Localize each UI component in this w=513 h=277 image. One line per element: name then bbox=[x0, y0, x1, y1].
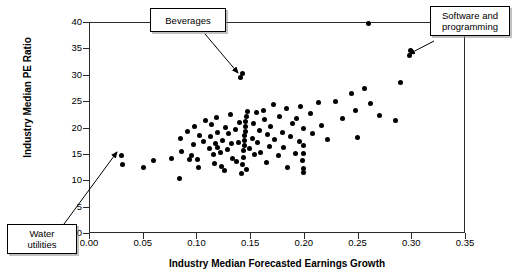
data-point bbox=[264, 160, 269, 165]
y-tick-label: 35 bbox=[0, 43, 91, 53]
x-tick-label: 0.05 bbox=[113, 238, 173, 248]
data-point bbox=[407, 53, 412, 58]
data-point bbox=[319, 123, 324, 128]
data-point bbox=[233, 127, 238, 132]
data-point bbox=[285, 165, 290, 170]
data-point bbox=[241, 155, 246, 160]
data-point bbox=[261, 108, 266, 113]
x-tick-label: 0.35 bbox=[435, 238, 495, 248]
x-tick-label: 0.25 bbox=[328, 238, 388, 248]
callout-beverages: Beverages bbox=[150, 8, 226, 32]
y-tick-label: 40 bbox=[0, 17, 91, 27]
data-point bbox=[377, 113, 382, 118]
data-point bbox=[267, 144, 272, 149]
callout-software-and-programming: Software and programming bbox=[430, 6, 510, 36]
callout-water-utilities: Water utilities bbox=[7, 224, 77, 254]
data-point bbox=[236, 140, 241, 145]
data-point bbox=[294, 116, 299, 121]
data-point bbox=[209, 122, 214, 127]
y-axis-title: Industry Median PE Ratio bbox=[22, 18, 33, 178]
data-point bbox=[218, 150, 223, 155]
data-point bbox=[333, 99, 338, 104]
data-point bbox=[250, 136, 255, 141]
data-point bbox=[298, 104, 303, 109]
y-tick-label: 15 bbox=[0, 149, 91, 159]
data-point bbox=[310, 131, 315, 136]
y-tick-label: 5 bbox=[0, 202, 91, 212]
data-point bbox=[262, 117, 267, 122]
data-point bbox=[220, 138, 225, 143]
data-point bbox=[280, 130, 285, 135]
data-point bbox=[290, 121, 295, 126]
data-point bbox=[349, 91, 354, 96]
y-tick-label: 20 bbox=[0, 123, 91, 133]
data-point bbox=[195, 157, 200, 162]
data-point bbox=[247, 146, 252, 151]
data-point bbox=[300, 158, 305, 163]
data-point bbox=[398, 80, 403, 85]
data-point bbox=[177, 176, 182, 181]
scatter-plot-figure: 05101520253035400.000.050.100.150.200.25… bbox=[0, 0, 513, 277]
x-tick-label: 0.10 bbox=[166, 238, 226, 248]
data-point bbox=[366, 21, 371, 26]
y-tick-label: 25 bbox=[0, 96, 91, 106]
y-tick-label: 30 bbox=[0, 70, 91, 80]
data-point bbox=[207, 146, 212, 151]
data-point bbox=[234, 159, 239, 164]
x-tick-label: 0.20 bbox=[274, 238, 334, 248]
data-point bbox=[203, 118, 208, 123]
data-point bbox=[368, 101, 373, 106]
data-point bbox=[393, 118, 398, 123]
data-point bbox=[252, 152, 257, 157]
data-point bbox=[276, 153, 281, 158]
data-point bbox=[408, 48, 413, 53]
data-point bbox=[222, 168, 227, 173]
data-point bbox=[178, 136, 183, 141]
x-tick-label: 0.30 bbox=[381, 238, 441, 248]
y-tick-label: 10 bbox=[0, 175, 91, 185]
data-point bbox=[340, 116, 345, 121]
data-point bbox=[192, 124, 197, 129]
x-tick-label: 0.15 bbox=[220, 238, 280, 248]
x-axis-title: Industry Median Forecasted Earnings Grow… bbox=[89, 258, 465, 269]
data-point bbox=[223, 125, 228, 130]
data-point bbox=[272, 137, 277, 142]
data-point bbox=[281, 145, 286, 150]
data-point bbox=[237, 120, 242, 125]
